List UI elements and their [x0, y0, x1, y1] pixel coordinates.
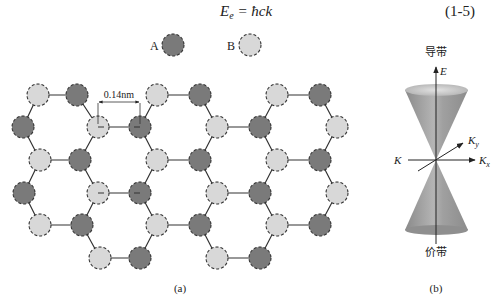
lattice-bonds [23, 95, 337, 258]
legend-label-a: A [150, 39, 159, 53]
atom-b [206, 116, 228, 138]
lattice-bond-joints [98, 127, 140, 193]
atom-b [29, 214, 51, 236]
atom-a [12, 116, 34, 138]
k-axis-label: K [393, 154, 402, 166]
lattice-atoms [12, 84, 348, 269]
atom-a [189, 214, 211, 236]
legend-atom-b [239, 34, 261, 56]
dirac-cone: 导带 E K Kx Ky 价带 (b) [393, 46, 490, 295]
atom-b [206, 247, 228, 269]
ky-axis-label: Ky [467, 134, 479, 149]
atom-a [129, 247, 151, 269]
atom-b [89, 247, 111, 269]
atom-b [266, 149, 288, 171]
atom-a [249, 116, 271, 138]
conduction-band-label: 导带 [425, 46, 447, 59]
kx-axis-label: Kx [478, 154, 490, 169]
atom-b [146, 84, 168, 106]
atom-b [29, 149, 51, 171]
energy-axis-label: E [439, 65, 447, 77]
atom-a [69, 149, 91, 171]
atom-b [27, 84, 49, 106]
atom-b [266, 84, 288, 106]
figure-canvas: A B [0, 0, 501, 306]
atom-b [206, 182, 228, 204]
atom-a [309, 84, 331, 106]
legend: A B [150, 34, 261, 56]
atom-a [71, 214, 93, 236]
atom-b [326, 116, 348, 138]
atom-b [146, 149, 168, 171]
valence-band-label: 价带 [425, 246, 447, 259]
atom-b [326, 182, 348, 204]
atom-b [146, 214, 168, 236]
atom-a [309, 149, 331, 171]
atom-a [249, 182, 271, 204]
panel-a-caption: (a) [174, 282, 187, 295]
atom-a [66, 84, 88, 106]
legend-label-b: B [227, 39, 235, 53]
bond-length-label: 0.14nm [104, 89, 135, 100]
atom-a [189, 84, 211, 106]
atom-a [309, 214, 331, 236]
atom-b [266, 214, 288, 236]
legend-atom-a [162, 34, 184, 56]
panel-b-caption: (b) [430, 282, 443, 295]
atom-a [249, 247, 271, 269]
atom-a [189, 149, 211, 171]
atom-a [13, 182, 35, 204]
